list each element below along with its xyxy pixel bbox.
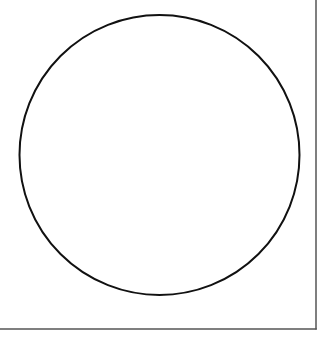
background xyxy=(0,0,325,338)
diagram-canvas xyxy=(0,0,325,338)
